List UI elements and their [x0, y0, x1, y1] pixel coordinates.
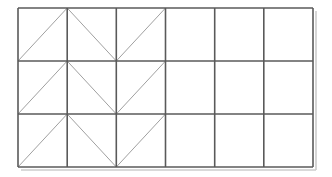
figure-root [0, 0, 332, 177]
diagonal-backslash-r2-c2 [67, 61, 116, 114]
grid-diagram [0, 0, 332, 177]
diagonal-slash-r1-c1 [18, 8, 67, 61]
diagonal-slash-r3-c1 [18, 114, 67, 167]
diagonal-slash-r2-c1 [18, 61, 67, 114]
grid-lines-layer [18, 8, 313, 167]
diagonal-slash-r1-c3 [116, 8, 165, 61]
drop-shadow-layer [21, 11, 316, 170]
diagonal-backslash-r3-c2 [67, 114, 116, 167]
diagonal-lines-layer [18, 8, 166, 167]
diagonal-slash-r3-c3 [116, 114, 165, 167]
diagonal-backslash-r1-c2 [67, 8, 116, 61]
diagonal-slash-r2-c3 [116, 61, 165, 114]
